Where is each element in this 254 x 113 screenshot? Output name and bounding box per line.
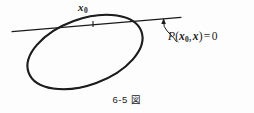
figure-caption-suffix: 図 xyxy=(131,94,142,105)
tangent-point-label: x0 xyxy=(78,2,88,13)
conic-ellipse xyxy=(17,0,152,103)
equation-equals-sign: = xyxy=(204,30,211,42)
tangent-point-label-subscript: 0 xyxy=(84,6,88,15)
equation-value: 0 xyxy=(212,30,218,42)
figure-caption: 6-5図 xyxy=(0,92,254,106)
equation-close-paren: ) xyxy=(199,30,203,42)
figure-caption-number: 6-5 xyxy=(112,94,128,105)
tangent-point-label-base: x xyxy=(78,1,84,13)
tangent-line xyxy=(12,17,181,31)
polar-equation-label: P(x0,x)=0 xyxy=(168,31,218,43)
equation-arg1-subscript: 0 xyxy=(185,35,189,44)
figure-container: x0 P(x0,x)=0 6-5図 xyxy=(0,0,254,113)
